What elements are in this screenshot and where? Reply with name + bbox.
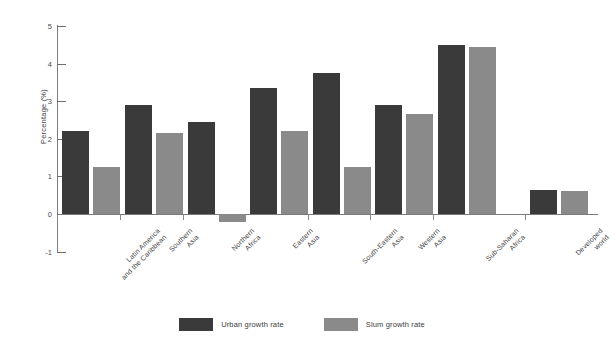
y-tick-3 (57, 101, 66, 102)
bar-slum-2 (219, 214, 246, 222)
legend-item-urban: Urban growth rate (179, 318, 284, 331)
legend-swatch-urban (179, 318, 213, 331)
y-axis-title: Percentage (%) (39, 57, 48, 177)
bar-urban-5 (375, 105, 402, 214)
y-tick-label-3: 3 (28, 97, 52, 106)
bar-slum-6 (469, 47, 496, 214)
bar-slum-0 (93, 167, 120, 214)
bar-slum-7 (561, 191, 588, 214)
category-label-6: Sub-Saharan Africa (485, 227, 527, 269)
x-tick-2 (183, 215, 184, 220)
x-tick-1 (120, 215, 121, 220)
x-tick-7 (525, 215, 526, 220)
y-tick-4 (57, 64, 66, 65)
y-tick-5 (57, 26, 66, 27)
y-tick-label-0: 0 (28, 210, 52, 219)
legend-label-slum: Slum growth rate (366, 320, 425, 329)
x-tick-6 (433, 215, 434, 220)
bar-urban-6 (438, 45, 465, 214)
bar-slum-4 (344, 167, 371, 214)
category-label-7: Developed world (574, 227, 611, 264)
y-tick-label-2: 2 (28, 135, 52, 144)
bar-slum-5 (406, 114, 433, 214)
y-tick-label-1: 1 (28, 172, 52, 181)
y-tick-label-5: 5 (28, 22, 52, 31)
legend-label-urban: Urban growth rate (221, 320, 284, 329)
y-tick-label-4: 4 (28, 60, 52, 69)
category-label-4: South-Eastern Asia (361, 227, 406, 272)
category-label-0: Latin America and the Caribbean (114, 227, 169, 282)
chart-legend: Urban growth rate Slum growth rate (0, 318, 604, 331)
bar-slum-1 (156, 133, 183, 214)
bar-urban-0 (62, 131, 89, 214)
x-tick-5 (370, 215, 371, 220)
category-label-2: Northern Africa (230, 227, 262, 259)
bar-slum-3 (281, 131, 308, 214)
bar-urban-1 (125, 105, 152, 214)
x-tick-0 (57, 215, 58, 220)
category-label-3: Eastern Asia (291, 227, 321, 257)
bar-urban-7 (530, 190, 557, 214)
y-tick--1 (57, 252, 66, 253)
bar-urban-4 (313, 73, 340, 214)
x-axis-line (57, 214, 598, 215)
x-tick-4 (308, 215, 309, 220)
legend-swatch-slum (324, 318, 358, 331)
bar-urban-2 (188, 122, 215, 214)
category-label-5: Western Asia (417, 227, 448, 258)
bar-urban-3 (250, 88, 277, 214)
category-label-1: Southern Asia (168, 227, 201, 260)
legend-item-slum: Slum growth rate (324, 318, 425, 331)
y-tick-label--1: -1 (28, 248, 52, 257)
